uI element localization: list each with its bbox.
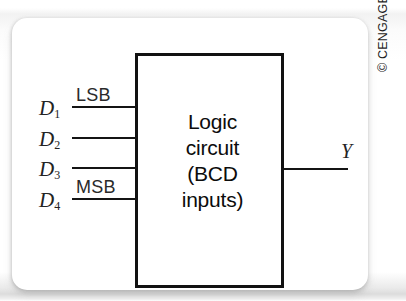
input-label-d3-subscript: 3 — [54, 168, 60, 182]
input-label-d2: D2 — [39, 129, 73, 156]
block-line-1: Logic — [138, 109, 287, 135]
input-label-d2-base: D — [39, 127, 54, 151]
figure-card: Logic circuit (BCD inputs) D1 D2 D3 D4 L… — [12, 18, 368, 290]
input-wire-d2 — [72, 137, 137, 139]
input-wire-d1 — [72, 106, 137, 108]
input-wire-d3 — [72, 167, 137, 169]
block-line-3: (BCD — [138, 161, 287, 187]
output-wire-y — [282, 168, 348, 170]
block-line-2: circuit — [138, 135, 287, 161]
input-label-d1-base: D — [39, 96, 54, 120]
logic-circuit-block-label: Logic circuit (BCD inputs) — [138, 109, 287, 213]
input-label-d4-base: D — [39, 188, 54, 212]
output-label-y: Y — [341, 141, 352, 161]
logic-circuit-block: Logic circuit (BCD inputs) — [135, 53, 284, 288]
input-label-d3-base: D — [39, 157, 54, 181]
lsb-label: LSB — [76, 86, 111, 104]
input-label-d1: D1 — [39, 98, 73, 125]
figure-title-remnant: BCD circuit block — [14, 0, 254, 7]
figure-screenshot: BCD circuit block Logic circuit (BCD inp… — [0, 0, 406, 301]
block-line-4: inputs) — [138, 187, 287, 213]
input-label-d4-subscript: 4 — [54, 199, 60, 213]
input-label-d2-subscript: 2 — [54, 138, 60, 152]
input-label-d4: D4 — [39, 190, 73, 217]
msb-label: MSB — [76, 178, 116, 196]
input-wire-d4 — [72, 198, 137, 200]
copyright-notice: © CENGAGE LEARNING 2012. — [377, 0, 390, 72]
input-label-d1-subscript: 1 — [54, 107, 60, 121]
input-label-d3: D3 — [39, 159, 73, 186]
